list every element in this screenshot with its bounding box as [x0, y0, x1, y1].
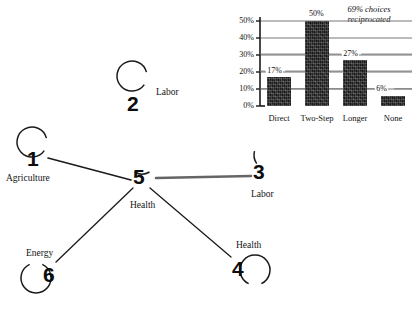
chart-axis [256, 17, 265, 106]
graph-edge-1-5 [48, 158, 131, 180]
bar-two-step [305, 21, 329, 106]
graph-node-label-5: Health [130, 201, 155, 211]
y-tick-label-20: 20% [234, 68, 254, 76]
bar-chart: 69% choices reciprocated 0%10%20%30%40%5… [234, 2, 416, 128]
graph-node-number-5[interactable]: 5 [133, 166, 145, 187]
bar-value-label-longer: 27% [342, 50, 359, 58]
graph-node-number-3[interactable]: 3 [253, 161, 265, 182]
x-tick-label-none: None [374, 114, 412, 123]
x-tick-label-direct: Direct [260, 114, 298, 123]
graph-node-number-6[interactable]: 6 [43, 264, 55, 285]
bar-value-label-none: 6% [375, 85, 388, 93]
y-tick-label-40: 40% [234, 34, 254, 42]
x-tick-label-two-step: Two-Step [298, 114, 336, 123]
y-tick-label-50: 50% [234, 17, 254, 25]
graph-edge-5-6 [56, 188, 133, 262]
bar-none [381, 96, 405, 106]
self-loop-node-4 [240, 255, 270, 284]
graph-node-number-1[interactable]: 1 [27, 148, 39, 169]
x-tick-label-longer: Longer [336, 114, 374, 123]
self-loop-node-2 [117, 61, 146, 91]
figure-canvas: 1Agriculture2Labor3Labor4Health5Health6E… [0, 0, 416, 313]
graph-node-label-6: Energy [26, 249, 53, 259]
y-tick-label-10: 10% [234, 85, 254, 93]
graph-node-label-2: Labor [156, 88, 179, 98]
graph-node-label-3: Labor [251, 190, 274, 200]
graph-node-number-2[interactable]: 2 [127, 93, 139, 114]
bar-value-label-direct: 17% [266, 67, 283, 75]
graph-node-label-4: Health [236, 241, 261, 251]
bar-direct [267, 77, 291, 106]
graph-node-number-4[interactable]: 4 [232, 258, 244, 279]
graph-node-label-1: Agriculture [6, 174, 50, 184]
bar-value-label-two-step: 50% [308, 10, 325, 18]
y-tick-label-0: 0% [234, 102, 254, 110]
graph-edge-5-4 [150, 188, 231, 257]
y-tick-label-30: 30% [234, 51, 254, 59]
graph-edge-5-3 [156, 176, 251, 178]
bar-longer [343, 60, 367, 106]
